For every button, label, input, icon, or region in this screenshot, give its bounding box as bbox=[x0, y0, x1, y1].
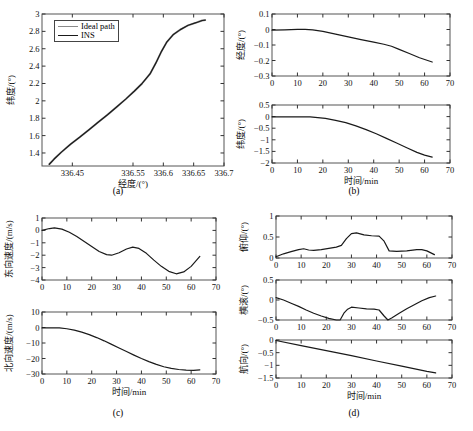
x-tick-label: 60 bbox=[423, 322, 432, 332]
axes-c-top: 010203040506070−4−3−2−101东向速度/(m/s) bbox=[3, 213, 220, 292]
y-axis-title: 东向速度/(m/s) bbox=[3, 220, 14, 278]
axes-d-bottom: 010203040506070−1.5−1−0.50航向/(°)时间/min bbox=[238, 335, 456, 401]
axes-d-middle: 010203040506070−0.500.5横滚/(°) bbox=[238, 275, 456, 332]
axes-d-top: 01020304050607000.51俯仰/(°) bbox=[238, 211, 456, 270]
y-tick-label: 1.4 bbox=[29, 148, 40, 158]
y-tick-label: 0 bbox=[35, 225, 39, 235]
y-tick-label: −0.2 bbox=[254, 56, 269, 66]
subplot-d-canvas: 01020304050607000.51俯仰/(°)01020304050607… bbox=[236, 200, 473, 431]
legend-label-ins: INS bbox=[81, 31, 95, 40]
y-tick-label: −30 bbox=[26, 369, 39, 379]
plot-frame bbox=[42, 218, 216, 280]
series-line bbox=[276, 341, 436, 373]
x-tick-label: 60 bbox=[420, 165, 429, 175]
series-line bbox=[276, 233, 434, 257]
legend-line-ideal-path bbox=[58, 26, 78, 27]
x-tick-label: 60 bbox=[420, 78, 429, 88]
x-tick-label: 0 bbox=[40, 282, 44, 292]
series-line bbox=[42, 228, 200, 274]
x-tick-label: 40 bbox=[369, 165, 378, 175]
x-tick-label: 60 bbox=[187, 282, 196, 292]
x-tick-label: 70 bbox=[446, 165, 455, 175]
y-tick-label: 2 bbox=[35, 96, 39, 106]
y-tick-label: 2.6 bbox=[29, 44, 40, 54]
axes-c-bottom: 010203040506070−30−20−10010北向速度/(m/s)时间/… bbox=[3, 307, 220, 397]
x-tick-label: 20 bbox=[87, 282, 96, 292]
x-tick-label: 0 bbox=[270, 165, 274, 175]
y-tick-label: 0.5 bbox=[259, 100, 270, 110]
subplot-c-canvas: 010203040506070−4−3−2−101东向速度/(m/s)01020… bbox=[0, 200, 236, 431]
x-tick-label: 20 bbox=[322, 380, 331, 390]
y-tick-label: 2.2 bbox=[29, 78, 40, 88]
x-tick-label: 40 bbox=[372, 380, 381, 390]
legend-subplot-a: Ideal path INS bbox=[54, 20, 119, 42]
y-axis-title: 横滚/(°) bbox=[238, 285, 249, 315]
x-tick-label: 60 bbox=[423, 380, 432, 390]
x-tick-label: 30 bbox=[344, 78, 353, 88]
x-tick-label: 70 bbox=[448, 380, 457, 390]
x-tick-label: 336.7 bbox=[214, 168, 233, 178]
axes-b-top: 010203040506070−0.3−0.2−0.100.1经度/(°) bbox=[235, 9, 454, 88]
x-tick-label: 30 bbox=[347, 260, 356, 270]
x-tick-label: 40 bbox=[372, 260, 381, 270]
legend-item-ins: INS bbox=[58, 31, 115, 40]
plot-frame bbox=[272, 14, 450, 76]
x-tick-label: 30 bbox=[347, 380, 356, 390]
x-axis-title: 时间/min bbox=[347, 390, 382, 401]
y-tick-label: −1 bbox=[260, 135, 269, 145]
x-tick-label: 336.65 bbox=[182, 168, 205, 178]
series-line bbox=[272, 29, 432, 62]
x-tick-label: 30 bbox=[112, 282, 121, 292]
y-tick-label: −4 bbox=[30, 275, 40, 285]
y-tick-label: 1.8 bbox=[29, 113, 40, 123]
subplot-b-canvas: 010203040506070−0.3−0.2−0.100.1经度/(°)010… bbox=[236, 0, 473, 200]
x-tick-label: 10 bbox=[297, 380, 306, 390]
x-tick-label: 30 bbox=[112, 376, 121, 386]
x-tick-label: 0 bbox=[40, 376, 44, 386]
series-line bbox=[272, 117, 432, 157]
y-tick-label: −0.5 bbox=[258, 348, 273, 358]
y-tick-label: 2.8 bbox=[29, 26, 40, 36]
subplot-c: 010203040506070−4−3−2−101东向速度/(m/s)01020… bbox=[0, 200, 236, 431]
series-line bbox=[42, 328, 200, 370]
y-tick-label: −1 bbox=[30, 238, 39, 248]
x-tick-label: 60 bbox=[187, 376, 196, 386]
x-tick-label: 20 bbox=[319, 78, 328, 88]
x-tick-label: 70 bbox=[448, 260, 457, 270]
x-tick-label: 20 bbox=[87, 376, 96, 386]
plot-frame bbox=[42, 312, 216, 374]
y-tick-label: −1.5 bbox=[254, 146, 269, 156]
y-tick-label: −0.5 bbox=[254, 123, 269, 133]
y-tick-label: 1 bbox=[269, 211, 273, 221]
x-tick-label: 336.6 bbox=[154, 168, 173, 178]
x-tick-label: 10 bbox=[297, 260, 306, 270]
x-tick-label: 40 bbox=[137, 376, 146, 386]
figure-root: 336.45336.55336.6336.65336.71.41.61.822.… bbox=[0, 0, 473, 431]
x-tick-label: 50 bbox=[395, 78, 404, 88]
y-tick-label: 0 bbox=[265, 112, 269, 122]
y-axis-title: 经度/(°) bbox=[235, 30, 246, 60]
y-tick-label: 1.6 bbox=[29, 131, 40, 141]
x-tick-label: 10 bbox=[293, 78, 302, 88]
x-tick-label: 50 bbox=[397, 322, 406, 332]
x-tick-label: 20 bbox=[322, 322, 331, 332]
y-axis-title: 北向速度/(m/s) bbox=[3, 314, 14, 372]
caption-b: (b) bbox=[324, 186, 384, 196]
x-tick-label: 0 bbox=[274, 380, 278, 390]
caption-c: (c) bbox=[88, 408, 148, 418]
x-tick-label: 0 bbox=[274, 260, 278, 270]
x-axis-title: 时间/min bbox=[112, 386, 147, 397]
x-tick-label: 40 bbox=[369, 78, 378, 88]
x-axis-title: 时间/min bbox=[344, 175, 379, 186]
x-tick-label: 336.55 bbox=[121, 168, 144, 178]
x-tick-label: 30 bbox=[344, 165, 353, 175]
x-tick-label: 20 bbox=[322, 260, 331, 270]
y-tick-label: 0 bbox=[269, 335, 273, 345]
y-tick-label: 3 bbox=[35, 9, 39, 19]
x-tick-label: 336.45 bbox=[61, 168, 84, 178]
x-tick-label: 10 bbox=[293, 165, 302, 175]
x-tick-label: 10 bbox=[297, 322, 306, 332]
x-tick-label: 60 bbox=[423, 260, 432, 270]
axes-a: 336.45336.55336.6336.65336.71.41.61.822.… bbox=[5, 9, 234, 189]
x-tick-label: 70 bbox=[448, 322, 457, 332]
